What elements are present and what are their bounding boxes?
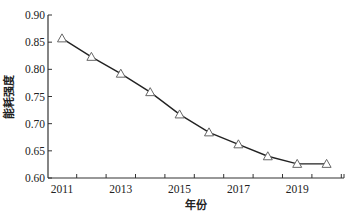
x-tick-label: 2011 (51, 183, 74, 195)
y-tick-label: 0.80 (25, 63, 45, 75)
y-tick-label: 0.75 (25, 91, 45, 103)
data-point-triangle-icon (58, 34, 67, 42)
data-series (58, 34, 332, 168)
y-tick-label: 0.90 (25, 9, 45, 21)
data-point-triangle-icon (205, 128, 214, 136)
y-tick-label: 0.60 (25, 172, 45, 184)
y-tick-label: 0.85 (25, 36, 45, 48)
line-chart: 0.600.650.700.750.800.850.90 20112013201… (0, 0, 353, 214)
x-tick-label: 2015 (168, 183, 191, 195)
y-tick-label: 0.65 (25, 145, 45, 157)
data-point-triangle-icon (87, 52, 96, 60)
x-axis-title: 年份 (185, 198, 208, 211)
data-point-triangle-icon (146, 88, 155, 96)
data-point-triangle-icon (175, 110, 184, 118)
x-tick-label: 2019 (286, 183, 309, 195)
x-tick-label: 2013 (109, 183, 132, 195)
x-tick-label: 2017 (227, 183, 250, 195)
data-point-triangle-icon (263, 152, 272, 160)
data-point-triangle-icon (116, 69, 125, 77)
y-tick-label: 0.70 (25, 118, 45, 130)
data-point-triangle-icon (234, 140, 243, 148)
x-axis: 20112013201520172019 (48, 174, 344, 195)
y-axis-title: 能耗强度 (2, 74, 15, 119)
y-axis: 0.600.650.700.750.800.850.90 (25, 9, 52, 184)
